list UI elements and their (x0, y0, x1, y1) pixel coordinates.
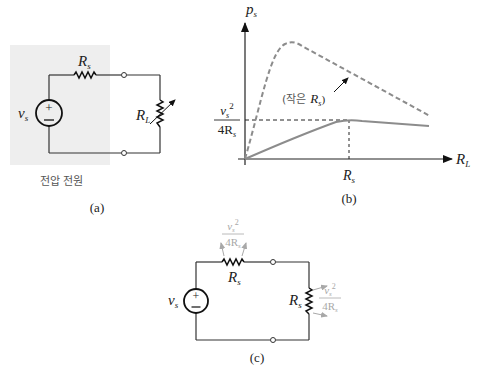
svg-text:4Rs: 4Rs (218, 122, 236, 139)
terminal-top-c (271, 260, 276, 265)
heat-arrow-icon (221, 243, 224, 256)
power-curve-small-rs (245, 42, 430, 159)
terminal-bottom-a (122, 151, 127, 156)
rs-label-c: Rs (227, 269, 241, 287)
load-rs-label-c: Rs (288, 292, 302, 310)
voltage-source-caption: 전압 전원 (40, 175, 84, 188)
plus-sign: + (45, 100, 52, 115)
x-tick-rs: Rs (342, 168, 356, 185)
plus-sign-c: + (193, 289, 200, 303)
small-rs-annotation: (작은Rs) (282, 91, 325, 108)
y-axis-label: ps (245, 1, 258, 19)
terminal-bottom-c (271, 338, 276, 343)
annotation-arrow-icon (334, 78, 348, 92)
svg-text:vs2: vs2 (324, 282, 336, 298)
power-annotation-series: vs2 4Rs (221, 218, 246, 256)
caption-a: (a) (90, 200, 104, 215)
caption-c: (c) (250, 350, 264, 365)
heat-arrow-icon (242, 243, 246, 256)
rl-label: RL (135, 107, 150, 125)
svg-text:vs2: vs2 (227, 218, 239, 234)
heat-arrow-icon (313, 313, 327, 316)
caption-b: (b) (341, 191, 356, 206)
figure-canvas: + vs Rs RL 전압 전원 (a) ps RL Rs vs2 4Rs (0, 0, 479, 375)
svg-text:4Rs: 4Rs (322, 300, 338, 314)
panel-b-graph: ps RL Rs vs2 4Rs (작은Rs) (b) (214, 1, 470, 206)
source-label-c: vs (168, 292, 179, 310)
load-resistor-rs-c (306, 288, 312, 314)
panel-c-circuit: + vs Rs Rs vs2 4Rs vs2 4Rs (c) (168, 218, 341, 365)
series-resistor-rs-c (222, 259, 244, 265)
power-annotation-load: vs2 4Rs (313, 282, 341, 316)
svg-text:4Rs: 4Rs (225, 236, 241, 250)
svg-text:vs2: vs2 (220, 101, 233, 120)
y-tick-max-power: vs2 4Rs (214, 101, 240, 139)
x-axis-label: RL (455, 151, 470, 169)
panel-a-circuit: + vs Rs RL 전압 전원 (a) (10, 45, 175, 215)
load-resistor-rl (157, 100, 163, 127)
terminal-top-a (122, 73, 127, 78)
power-curve (245, 120, 429, 159)
